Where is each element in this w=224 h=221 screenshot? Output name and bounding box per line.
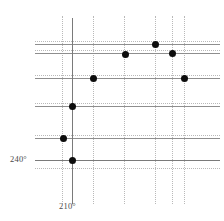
data-point	[60, 135, 67, 142]
horizontal-gridline	[35, 41, 220, 42]
scatter-plot-figure: 240° 210°	[0, 0, 224, 221]
x-axis-tick-label: 210°	[59, 201, 76, 211]
data-point	[69, 103, 76, 110]
plot-area: 240° 210°	[0, 0, 224, 221]
data-point	[169, 50, 176, 57]
data-point	[90, 75, 97, 82]
data-point	[69, 157, 76, 164]
horizontal-reference-line	[35, 106, 220, 107]
horizontal-reference-line	[35, 78, 220, 79]
data-point	[152, 41, 159, 48]
horizontal-reference-line	[35, 44, 220, 45]
data-point	[122, 51, 129, 58]
horizontal-gridline	[35, 168, 220, 169]
x-axis-line	[35, 160, 220, 161]
y-axis-line	[72, 18, 73, 204]
horizontal-gridline	[35, 75, 220, 76]
horizontal-gridline	[35, 103, 220, 104]
y-axis-tick-label: 240°	[10, 154, 27, 164]
data-point	[181, 75, 188, 82]
